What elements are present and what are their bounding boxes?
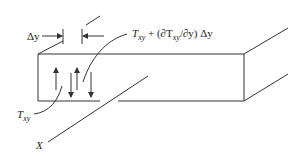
x-axis-label: X <box>35 139 44 151</box>
delta-y-label: Δy <box>27 30 40 42</box>
block-depth-top-right <box>244 28 288 54</box>
shear-stress-diagram: Δy Txy + (∂Txy/∂y) Δy Txy X <box>0 0 305 156</box>
block-depth-left <box>38 41 63 54</box>
shear-bottom-label: Txy <box>17 108 31 123</box>
x-axis-line <box>48 76 148 142</box>
delta-y-dimension: Δy <box>27 29 104 44</box>
shear-top-label: Txy + (∂Txy/∂y) Δy <box>132 27 213 42</box>
block-depth-bottom-right <box>244 74 288 101</box>
shear-arrows <box>56 68 91 97</box>
block-depth-partial <box>86 16 100 25</box>
leader-top-label <box>83 34 127 82</box>
